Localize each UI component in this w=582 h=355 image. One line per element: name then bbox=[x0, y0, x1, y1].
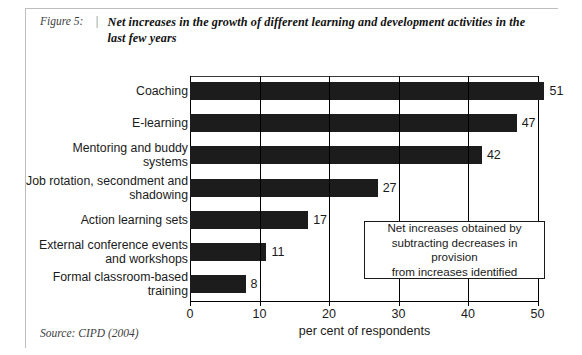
x-gridline bbox=[329, 76, 330, 302]
x-axis-tick bbox=[468, 302, 469, 306]
x-axis-tick bbox=[260, 302, 261, 306]
bar-value-label: 17 bbox=[313, 211, 327, 229]
bar-value-label: 11 bbox=[271, 243, 284, 261]
x-axis-tick bbox=[538, 302, 539, 306]
category-label: E-learning bbox=[2, 116, 188, 130]
x-tick-label: 20 bbox=[322, 307, 336, 321]
category-label: Mentoring and buddy systems bbox=[2, 141, 188, 169]
category-label: External conference events and workshops bbox=[2, 238, 188, 266]
x-tick-label: 30 bbox=[392, 307, 406, 321]
bar-value-label: 47 bbox=[522, 114, 536, 132]
category-label: Formal classroom-based training bbox=[2, 270, 188, 298]
x-tick-label: 50 bbox=[531, 307, 545, 321]
source-note: Source: CIPD (2004) bbox=[40, 327, 139, 339]
bar bbox=[190, 82, 544, 100]
bar-value-label: 51 bbox=[549, 82, 563, 100]
category-axis-labels: CoachingE-learningMentoring and buddy sy… bbox=[0, 0, 188, 355]
chart-plot-region: CoachingE-learningMentoring and buddy sy… bbox=[0, 0, 582, 355]
x-axis-tick bbox=[399, 302, 400, 306]
bar bbox=[190, 146, 482, 164]
annotation-callout: Net increases obtained by subtracting de… bbox=[364, 221, 545, 279]
x-tick-label: 0 bbox=[187, 307, 194, 321]
x-axis-line bbox=[190, 301, 539, 302]
category-label: Job rotation, secondment and shadowing bbox=[2, 174, 188, 202]
bar bbox=[190, 243, 266, 261]
x-gridline bbox=[260, 76, 261, 302]
category-label: Action learning sets bbox=[2, 213, 188, 227]
bar-value-label: 42 bbox=[487, 146, 501, 164]
bar bbox=[190, 275, 246, 293]
figure-frame: Figure 5: | Net increases in the growth … bbox=[0, 0, 582, 355]
x-tick-label: 40 bbox=[461, 307, 475, 321]
bar-value-label: 27 bbox=[383, 179, 397, 197]
bar bbox=[190, 211, 308, 229]
x-tick-label: 10 bbox=[253, 307, 267, 321]
x-axis-tick bbox=[190, 302, 191, 306]
annotation-callout-text: Net increases obtained by subtracting de… bbox=[365, 221, 544, 279]
x-axis-tick bbox=[329, 302, 330, 306]
bar-value-label: 8 bbox=[251, 275, 258, 293]
category-label: Coaching bbox=[2, 84, 188, 98]
bar bbox=[190, 179, 378, 197]
x-axis-title: per cent of respondents bbox=[190, 324, 539, 338]
